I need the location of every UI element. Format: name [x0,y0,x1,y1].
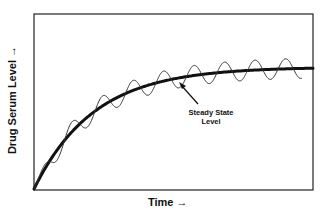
x-axis-label: Time → [148,196,188,208]
annotation-line2: Level [176,117,246,126]
average-level-curve [34,68,313,189]
annotation-arrow [179,82,198,104]
y-axis-label: Drug Serum Level → [6,20,20,180]
chart-plot-area [0,0,328,213]
actual-level-curve [34,59,302,189]
annotation-line1: Steady State [176,108,246,117]
plot-frame [34,14,313,190]
steady-state-annotation: Steady State Level [176,108,246,126]
